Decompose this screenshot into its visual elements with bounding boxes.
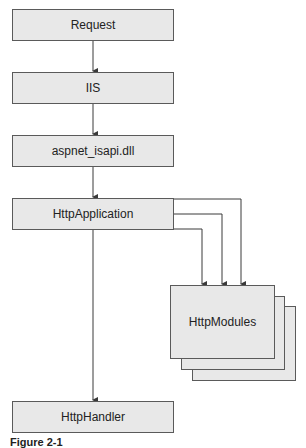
handler-box: HttpHandler	[12, 401, 174, 433]
modules-box: HttpModules	[170, 285, 275, 359]
iis-label: IIS	[86, 81, 101, 95]
figure-caption: Figure 2-1	[10, 436, 63, 448]
arrow-application-module-1	[174, 199, 241, 284]
arrow-application-module-3	[174, 229, 202, 284]
application-box: HttpApplication	[12, 198, 174, 230]
application-label: HttpApplication	[53, 207, 134, 221]
isapi-box: aspnet_isapi.dll	[12, 135, 174, 167]
modules-label: HttpModules	[189, 315, 256, 329]
request-label: Request	[71, 18, 116, 32]
isapi-label: aspnet_isapi.dll	[52, 144, 135, 158]
request-box: Request	[12, 9, 174, 41]
arrow-application-module-2	[174, 214, 222, 284]
iis-box: IIS	[12, 72, 174, 104]
handler-label: HttpHandler	[61, 410, 125, 424]
